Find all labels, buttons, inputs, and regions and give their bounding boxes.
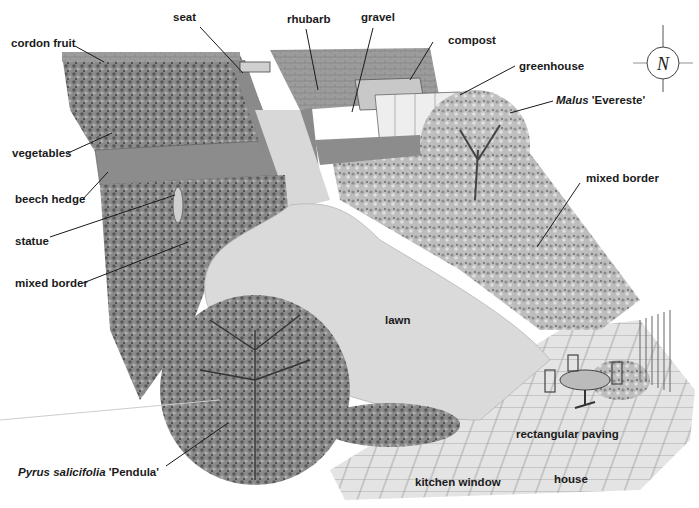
label-rhubarb: rhubarb bbox=[287, 14, 330, 26]
label-rectangular-paving: rectangular paving bbox=[516, 429, 619, 441]
svg-text:N: N bbox=[656, 54, 670, 74]
label-cordon-fruit: cordon fruit bbox=[11, 38, 76, 50]
label-pyrus-cultivar: 'Pendula' bbox=[109, 466, 159, 478]
label-greenhouse: greenhouse bbox=[519, 61, 584, 73]
label-malus-evereste: Malus 'Evereste' bbox=[556, 95, 645, 107]
label-beech-hedge: beech hedge bbox=[15, 194, 85, 206]
label-compost: compost bbox=[448, 35, 496, 47]
label-pyrus-species: Pyrus salicifolia bbox=[18, 466, 106, 478]
label-gravel: gravel bbox=[361, 12, 395, 24]
label-lawn: lawn bbox=[385, 315, 411, 327]
garden-seat bbox=[240, 62, 270, 72]
label-seat: seat bbox=[173, 12, 196, 24]
label-kitchen-window: kitchen window bbox=[415, 477, 501, 489]
label-mixed-border-right: mixed border bbox=[586, 173, 659, 185]
north-compass-icon: N bbox=[633, 25, 693, 92]
label-vegetables: vegetables bbox=[12, 148, 71, 160]
garden-plan-diagram: N cordon fruit seat rhubarb gravel compo… bbox=[0, 0, 699, 508]
label-malus-cultivar: 'Evereste' bbox=[592, 94, 645, 106]
label-statue: statue bbox=[15, 236, 49, 248]
statue bbox=[173, 187, 183, 223]
label-house: house bbox=[554, 474, 588, 486]
label-malus-genus: Malus bbox=[556, 94, 589, 106]
label-mixed-border-left: mixed border bbox=[15, 278, 88, 290]
label-pyrus-salicifolia: Pyrus salicifolia 'Pendula' bbox=[18, 467, 159, 479]
patio-table bbox=[560, 370, 610, 390]
